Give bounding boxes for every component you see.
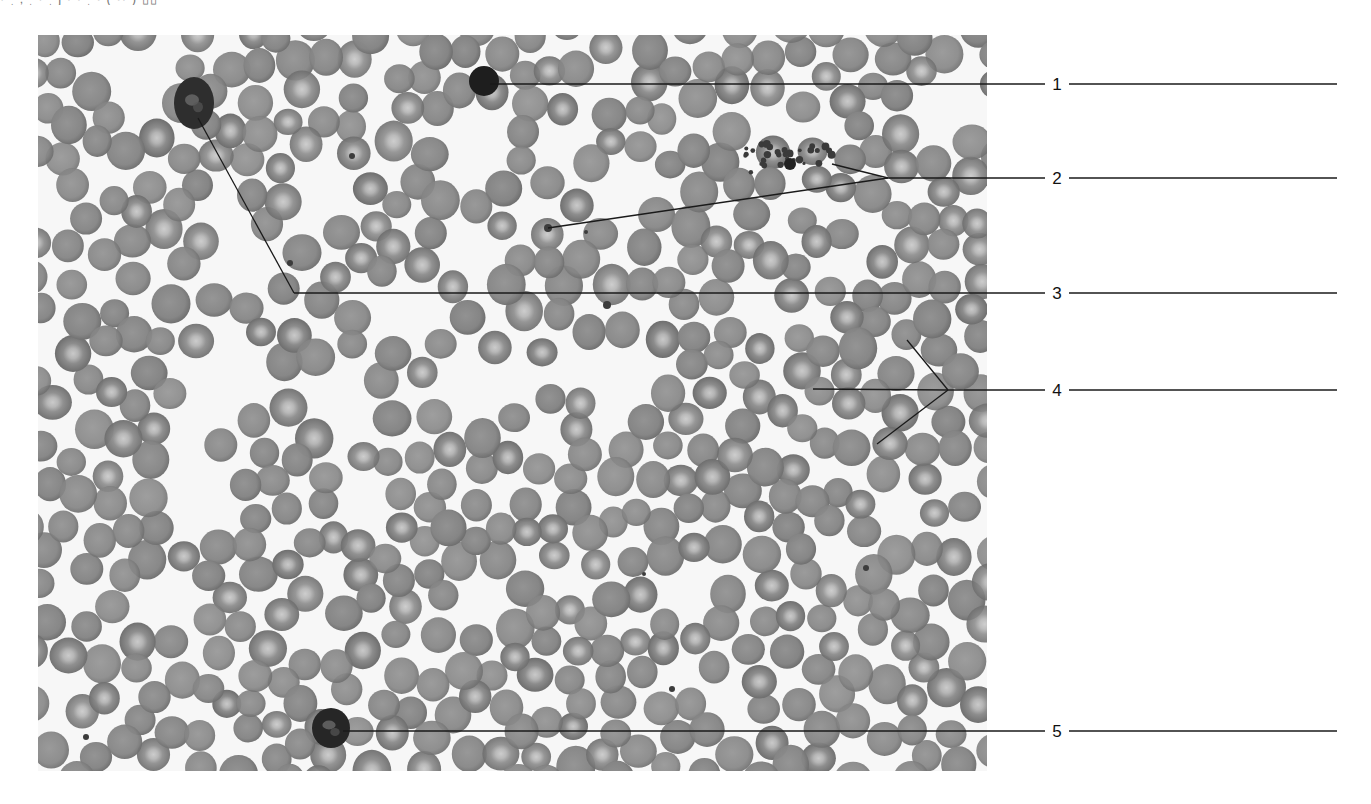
erythrocyte <box>200 530 237 565</box>
erythrocyte <box>15 633 48 668</box>
erythrocyte <box>755 570 789 602</box>
erythrocyte <box>905 433 941 466</box>
erythrocyte <box>704 341 734 369</box>
erythrocyte <box>244 48 276 83</box>
erythrocyte <box>163 188 195 222</box>
label-number: 3 <box>1052 284 1061 303</box>
erythrocyte <box>558 50 594 86</box>
platelet <box>802 162 805 165</box>
erythrocyte <box>56 168 89 202</box>
erythrocyte <box>530 166 564 199</box>
erythrocyte <box>530 765 562 796</box>
erythrocyte <box>71 611 102 641</box>
platelet <box>349 153 355 159</box>
erythrocyte <box>773 745 809 785</box>
erythrocyte <box>478 331 512 364</box>
erythrocyte <box>12 685 49 722</box>
erythrocyte <box>367 256 397 287</box>
erythrocyte <box>589 31 622 64</box>
erythrocyte <box>592 581 630 617</box>
platelet <box>743 154 747 158</box>
erythrocyte <box>382 191 411 218</box>
erythrocyte <box>411 137 449 171</box>
erythrocyte <box>897 21 933 56</box>
erythrocyte <box>593 264 631 305</box>
erythrocyte <box>70 553 103 585</box>
neutrophil-bottom <box>312 708 350 748</box>
erythrocyte <box>57 270 88 300</box>
erythrocyte <box>116 316 152 352</box>
erythrocyte <box>644 692 679 726</box>
erythrocyte <box>266 153 295 183</box>
erythrocyte <box>52 230 84 263</box>
erythrocyte <box>500 764 536 798</box>
erythrocyte <box>786 533 816 564</box>
erythrocyte <box>526 595 560 631</box>
erythrocyte <box>592 98 627 132</box>
erythrocyte <box>89 682 120 715</box>
erythrocyte <box>807 605 836 633</box>
erythrocyte <box>678 533 709 562</box>
erythrocyte <box>59 761 96 799</box>
erythrocyte <box>193 674 225 703</box>
platelet <box>789 153 793 157</box>
erythrocyte <box>838 654 873 691</box>
erythrocyte <box>628 404 664 440</box>
erythrocyte <box>976 733 1013 768</box>
erythrocyte <box>282 443 313 476</box>
erythrocyte <box>747 694 780 723</box>
erythrocyte <box>626 96 655 124</box>
erythrocyte <box>750 607 780 637</box>
erythrocyte <box>94 486 127 520</box>
erythrocyte <box>534 247 564 279</box>
erythrocyte <box>948 642 986 680</box>
erythrocyte <box>535 384 565 414</box>
erythrocyte <box>460 189 492 223</box>
erythrocyte <box>152 284 191 323</box>
erythrocyte <box>320 262 351 293</box>
erythrocyte <box>274 109 303 135</box>
erythrocyte <box>531 218 564 251</box>
erythrocyte <box>96 377 127 407</box>
erythrocyte <box>808 12 844 47</box>
erythrocyte <box>413 721 451 755</box>
erythrocyte <box>891 631 920 661</box>
erythrocyte <box>261 24 290 52</box>
erythrocyte <box>93 17 124 46</box>
erythrocyte <box>84 523 116 558</box>
platelet <box>584 230 588 234</box>
erythrocyte <box>154 625 188 658</box>
erythrocyte <box>819 632 849 661</box>
erythrocyte <box>515 19 546 53</box>
erythrocyte <box>960 686 996 723</box>
erythrocyte <box>507 146 536 174</box>
erythrocyte <box>772 8 810 43</box>
erythrocyte <box>375 121 413 162</box>
erythrocyte <box>560 189 594 223</box>
erythrocyte <box>814 505 844 536</box>
erythrocyte <box>268 272 300 304</box>
erythrocyte <box>532 627 562 656</box>
labeled-blood-smear-figure: 12345 <box>0 0 1371 804</box>
erythrocyte <box>385 478 416 511</box>
erythrocyte <box>296 338 335 376</box>
erythrocyte <box>83 125 112 157</box>
erythrocyte <box>646 321 680 358</box>
erythrocyte <box>225 611 256 642</box>
erythrocyte <box>450 300 486 335</box>
erythrocyte <box>802 225 832 258</box>
label-number: 2 <box>1052 169 1061 188</box>
erythrocyte <box>913 299 951 338</box>
erythrocyte <box>461 489 492 521</box>
erythrocyte <box>57 448 86 476</box>
erythrocyte <box>581 550 610 580</box>
erythrocyte <box>677 244 708 275</box>
erythrocyte <box>357 584 386 613</box>
erythrocyte <box>238 660 272 692</box>
erythrocyte <box>974 432 1004 463</box>
erythrocyte <box>864 7 903 47</box>
platelet <box>642 572 646 576</box>
erythrocyte <box>551 10 582 40</box>
erythrocyte <box>238 403 271 438</box>
erythrocyte <box>882 114 919 153</box>
